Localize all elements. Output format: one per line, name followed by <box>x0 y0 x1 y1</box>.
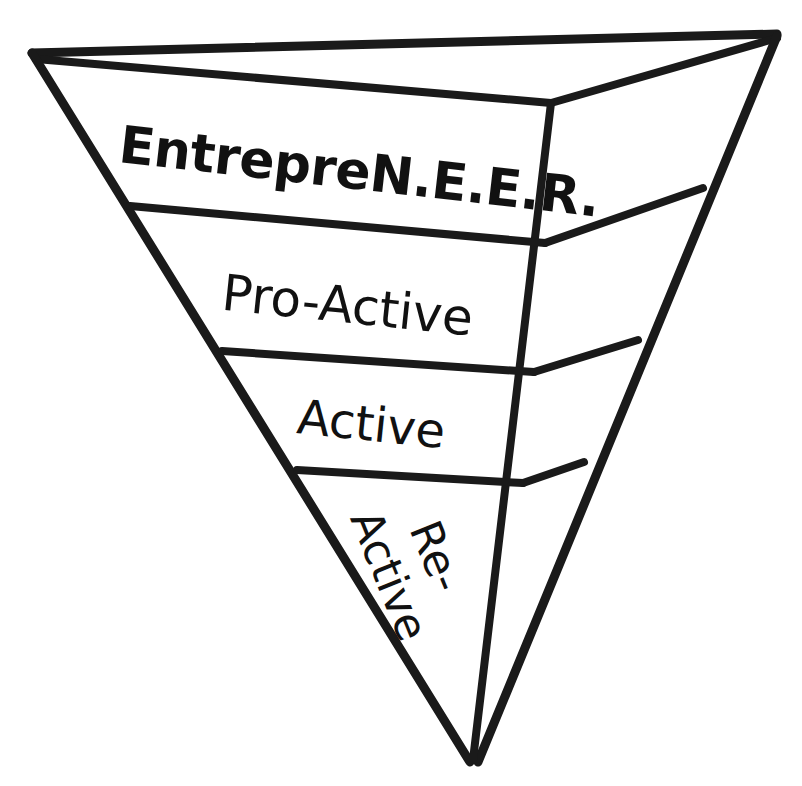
inverted-pyramid-diagram: EntrepreN.E.E.R. Pro-Active Active Re- A… <box>0 0 802 786</box>
diagram-canvas: EntrepreN.E.E.R. Pro-Active Active Re- A… <box>0 0 802 786</box>
